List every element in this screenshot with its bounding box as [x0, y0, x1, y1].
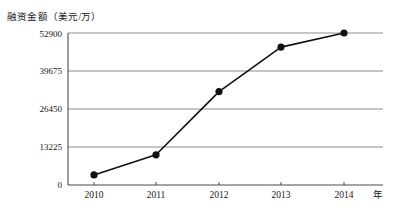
x-tick-label-2013: 2013	[258, 190, 304, 201]
plot-area	[0, 0, 402, 222]
data-point-2011	[152, 151, 159, 158]
x-tick-label-2014: 2014	[321, 190, 367, 201]
data-point-2010	[90, 171, 97, 178]
x-tick-label-2010: 2010	[71, 190, 117, 201]
data-point-markers	[90, 29, 347, 178]
data-point-2014	[340, 29, 347, 36]
data-point-2012	[215, 88, 222, 95]
x-axis-unit-label: 年	[373, 190, 383, 201]
data-line-series	[94, 33, 344, 175]
line-chart: 融资金额（美元/万） 52900 39675 26450 13225 0 201…	[0, 0, 402, 222]
data-point-2013	[277, 44, 284, 51]
x-tick-label-2011: 2011	[133, 190, 179, 201]
x-tick-label-2012: 2012	[196, 190, 242, 201]
